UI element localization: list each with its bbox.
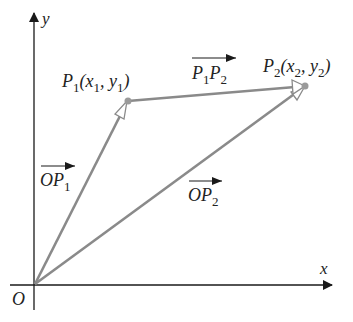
vector-op1: [35, 101, 127, 284]
vector-op2-label: OP2: [188, 181, 222, 209]
y-axis-label: y: [40, 9, 50, 28]
point-p1: [125, 98, 132, 105]
origin-label: O: [12, 289, 25, 309]
x-axis-label: x: [319, 259, 328, 278]
svg-text:P1P2: P1P2: [191, 63, 227, 87]
vector-diagram: y x O P1(x1, y1) P2(x2, y2) P1P2 OP1 OP2: [0, 0, 353, 322]
arrowhead-icon: [115, 101, 127, 119]
point-p1-label: P1(x1, y1): [61, 71, 129, 95]
svg-text:OP2: OP2: [188, 185, 219, 209]
point-p2: [302, 83, 309, 90]
diagram-svg: y x O P1(x1, y1) P2(x2, y2) P1P2 OP1 OP2: [0, 0, 353, 322]
point-p2-label: P2(x2, y2): [262, 56, 330, 80]
vector-p1p2: [128, 80, 305, 101]
vector-p1p2-label: P1P2: [191, 58, 236, 87]
vector-op2: [35, 86, 305, 284]
vector-op1-label: OP1: [40, 166, 75, 194]
svg-text:OP1: OP1: [40, 170, 71, 194]
